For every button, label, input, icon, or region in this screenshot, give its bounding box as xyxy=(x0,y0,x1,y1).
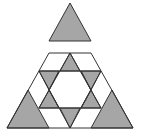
shaded-triangle-bottom-right xyxy=(91,90,133,128)
shaded-triangle-lower-right xyxy=(81,90,101,108)
geometry-figure xyxy=(0,0,141,137)
top-shaded-triangle xyxy=(49,3,91,41)
shaded-triangle-bottom-center xyxy=(60,108,80,128)
shaded-triangle-lower-left xyxy=(39,90,59,108)
shaded-triangle-upper-left xyxy=(39,71,59,90)
shaded-triangle-top-center xyxy=(60,53,80,71)
shaded-triangle-bottom-left xyxy=(7,90,49,128)
shaded-triangle-upper-right xyxy=(81,71,101,90)
